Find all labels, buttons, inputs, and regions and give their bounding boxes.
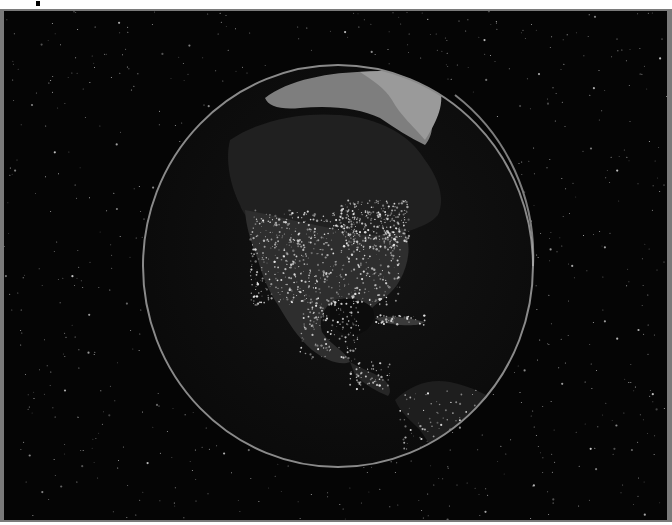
corner-mark [36, 1, 40, 6]
earth-at-night-image [4, 11, 667, 520]
starfield [4, 11, 667, 520]
top-margin [0, 0, 672, 9]
